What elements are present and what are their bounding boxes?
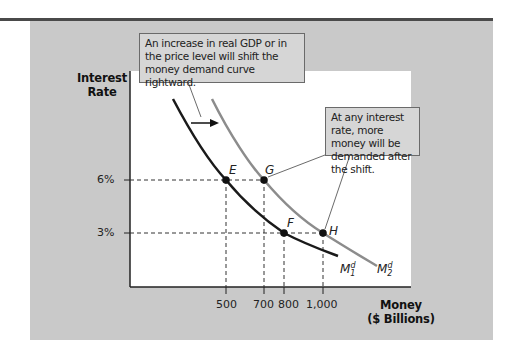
curve-label-m1-sup: d bbox=[350, 261, 355, 270]
x-tick-label-800: 800 bbox=[278, 298, 299, 311]
x-axis-title-line1: Money bbox=[360, 298, 442, 312]
curve-label-m1: M1d bbox=[340, 261, 356, 278]
x-tick-label-500: 500 bbox=[216, 298, 237, 311]
point-label-e: E bbox=[229, 163, 237, 177]
callout-shift-explanation: An increase in real GDP or in the price … bbox=[139, 33, 305, 83]
y-axis-title: Interest Rate bbox=[74, 71, 130, 99]
point-g bbox=[260, 176, 268, 184]
plot-area bbox=[130, 71, 411, 287]
y-tick-label-6: 6% bbox=[97, 173, 114, 186]
callout-more-money-demanded: At any interest rate, more money will be… bbox=[325, 107, 420, 156]
point-f bbox=[280, 229, 288, 237]
point-label-f: F bbox=[287, 216, 294, 230]
y-tick-label-3: 3% bbox=[97, 226, 114, 239]
curve-label-m1-sub: 1 bbox=[350, 269, 355, 278]
point-h bbox=[319, 229, 327, 237]
x-axis-title-line2: ($ Billions) bbox=[360, 312, 442, 326]
x-tick-label-1000: 1,000 bbox=[306, 298, 338, 311]
y-axis-title-line2: Rate bbox=[74, 85, 130, 99]
y-axis-title-line1: Interest bbox=[74, 71, 130, 85]
curve-label-m2-main: M bbox=[377, 262, 387, 276]
curve-label-m2-sup: d bbox=[387, 261, 392, 270]
curve-label-m2: M2d bbox=[377, 261, 393, 278]
x-axis-title: Money ($ Billions) bbox=[360, 298, 442, 326]
point-label-h: H bbox=[329, 224, 338, 238]
curve-label-m1-main: M bbox=[340, 262, 350, 276]
x-tick-label-700: 700 bbox=[253, 298, 274, 311]
point-e bbox=[222, 176, 230, 184]
curve-label-m2-sub: 2 bbox=[387, 269, 392, 278]
point-label-g: G bbox=[265, 163, 274, 177]
